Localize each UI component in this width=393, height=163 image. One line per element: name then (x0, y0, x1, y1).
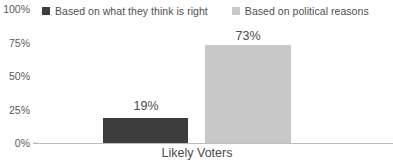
y-tick-label-50: 50% (9, 71, 30, 82)
bar-value-label-political-reasons: 73% (235, 29, 260, 43)
x-axis-line (33, 143, 393, 144)
bar-chart: Based on what they think is right Based … (0, 0, 393, 163)
y-tick-label-25: 25% (9, 104, 30, 115)
y-tick-label-100: 100% (3, 4, 30, 15)
y-tick-label-75: 75% (9, 37, 30, 48)
bar-political-reasons[interactable] (205, 45, 291, 143)
bar-think-is-right[interactable] (103, 118, 188, 143)
x-axis-category-label: Likely Voters (162, 145, 233, 161)
bar-value-label-think-is-right: 19% (133, 99, 158, 113)
y-tick-label-0: 0% (15, 138, 30, 149)
y-axis: 100% 75% 50% 25% 0% (0, 0, 33, 163)
plot-area (33, 9, 393, 143)
